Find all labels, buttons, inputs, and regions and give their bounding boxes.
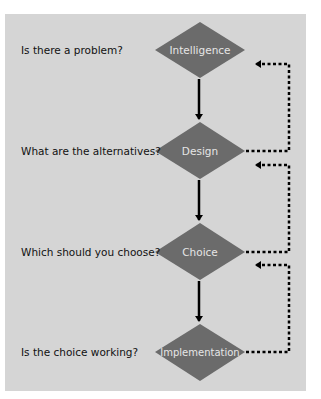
question-choice: Which should you choose? — [21, 246, 160, 258]
question-implementation: Is the choice working? — [21, 346, 138, 358]
feedback-choice-to-design — [246, 165, 289, 252]
design-label: Design — [155, 145, 245, 157]
feedback-implementation-to-choice — [246, 265, 289, 352]
question-design: What are the alternatives? — [21, 145, 161, 157]
implementation-label: Implementation — [155, 347, 245, 358]
question-intelligence: Is there a problem? — [21, 44, 123, 56]
intelligence-label: Intelligence — [155, 44, 245, 56]
choice-label: Choice — [155, 246, 245, 258]
feedback-design-to-intelligence — [246, 64, 289, 151]
flow-diagram — [0, 0, 321, 399]
